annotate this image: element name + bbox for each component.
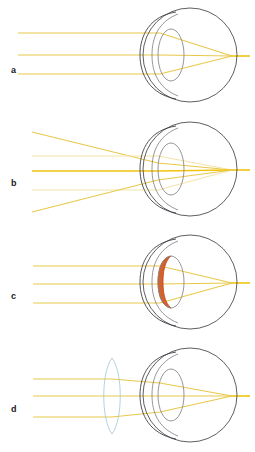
eyeball-globe [143,348,237,442]
ray-bottom [18,56,232,74]
panel-b: b [0,113,255,226]
crystalline-lens [158,143,184,195]
ray-top [18,33,232,56]
ray-middle [18,55,232,56]
light-rays-d [33,379,250,417]
panel-label-d: d [11,405,17,414]
light-rays-b [32,132,250,212]
light-rays-a [18,33,250,74]
panel-c-diagram [0,226,255,339]
anterior-chamber-arc [152,354,178,436]
panel-label-a: a [11,66,16,75]
panel-b-diagram [0,113,255,226]
eyeball-globe [143,235,237,329]
ray-bottom [33,283,232,303]
panel-d-diagram [0,339,255,452]
ray-bottom [33,396,232,417]
anterior-chamber-arc [152,128,178,210]
ray-top [33,379,232,396]
ray-5-lower-oblique [32,170,232,212]
ray-2-upper-faint [32,156,232,170]
crystalline-lens [158,369,184,421]
anterior-chamber-arc [152,241,178,323]
panel-a-diagram [0,0,255,113]
ray-3-axial [32,170,232,171]
panel-d: d [0,339,255,452]
ray-top [33,266,232,283]
panel-label-b: b [11,179,17,188]
light-rays-c [33,266,250,303]
eye-optics-figure: a b [0,0,255,452]
panel-label-c: c [11,292,16,301]
ray-middle [33,283,232,284]
panel-a: a [0,0,255,113]
panel-c: c [0,226,255,339]
